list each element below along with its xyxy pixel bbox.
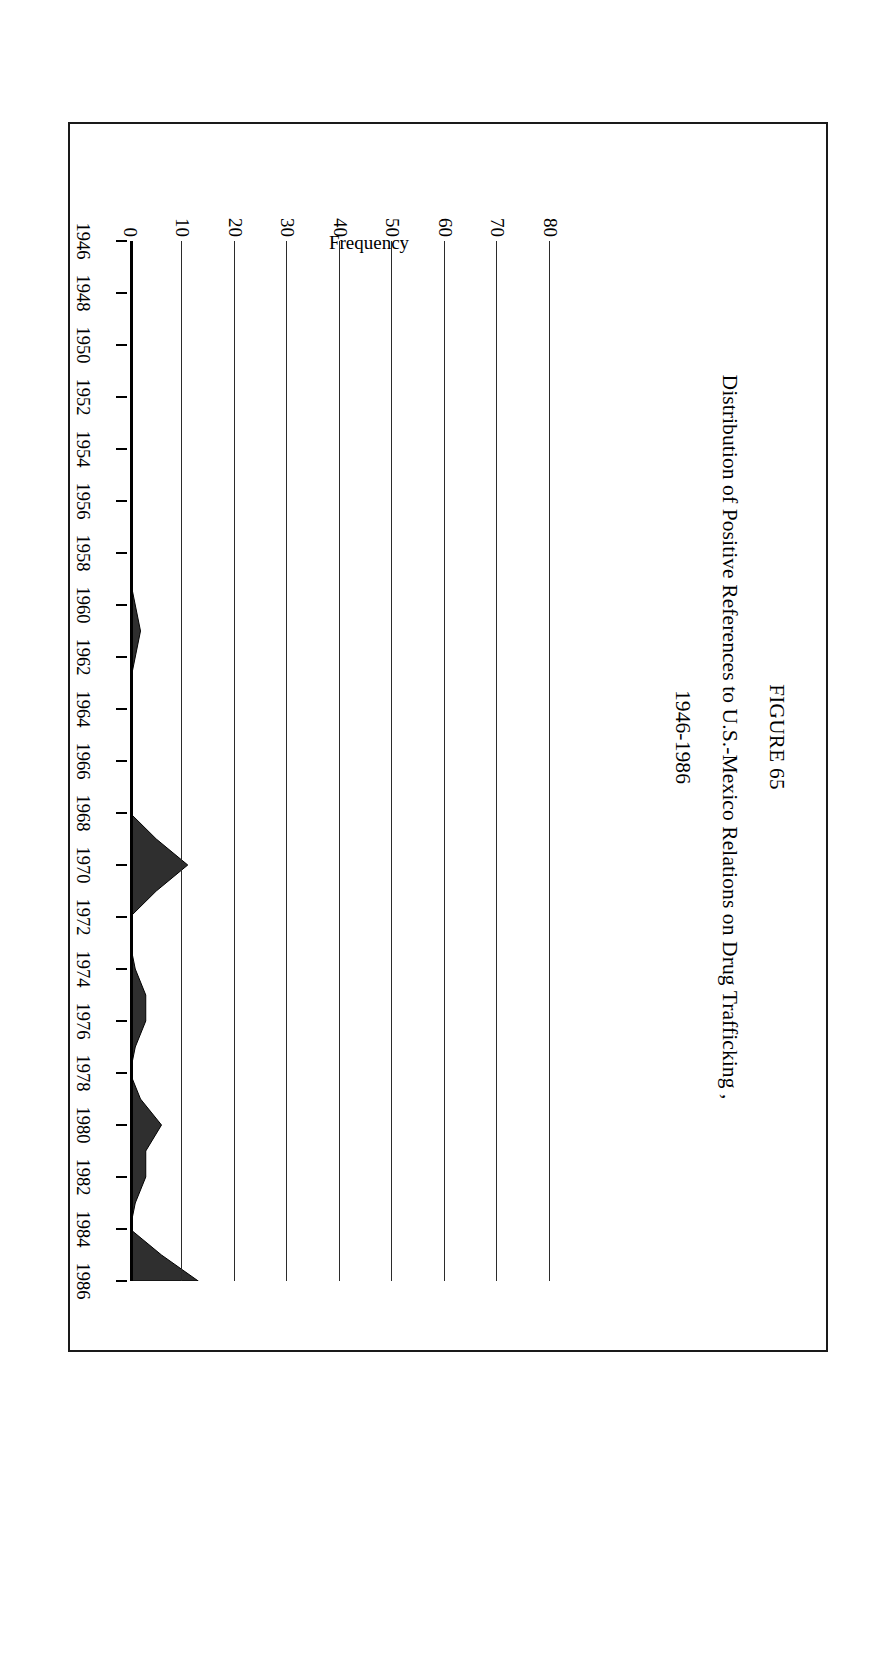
x-tick-mark: [116, 1124, 127, 1126]
x-tick-mark: [116, 916, 127, 918]
figure-title-block: FIGURE 65 Distribution of Positive Refer…: [667, 137, 792, 1337]
x-tick-label: 1976: [74, 991, 93, 1051]
gridline: [287, 241, 288, 1281]
gridline: [549, 241, 550, 1281]
x-axis-ticks: [115, 241, 127, 1281]
x-tick-mark: [116, 1280, 127, 1282]
x-tick-label: 1962: [74, 627, 93, 687]
figure-subtitle: 1946-1986: [667, 137, 699, 1337]
x-tick-mark: [116, 760, 127, 762]
x-tick-mark: [116, 1176, 127, 1178]
x-tick-label: 1954: [74, 419, 93, 479]
area-series-path: [130, 241, 550, 1281]
x-tick-mark: [116, 708, 127, 710]
gridline: [444, 241, 445, 1281]
figure-page-border: FIGURE 65 Distribution of Positive Refer…: [68, 122, 828, 1352]
x-tick-mark: [116, 968, 127, 970]
x-tick-mark: [116, 604, 127, 606]
x-tick-label: 1950: [74, 315, 93, 375]
x-tick-mark: [116, 864, 127, 866]
chart-plot-area: [130, 241, 550, 1281]
y-tick-label: 20: [226, 201, 245, 237]
gridline: [182, 241, 183, 1281]
x-tick-mark: [116, 448, 127, 450]
x-tick-label: 1948: [74, 263, 93, 323]
x-tick-mark: [116, 344, 127, 346]
x-tick-mark: [116, 1072, 127, 1074]
y-tick-label: 80: [541, 201, 560, 237]
x-tick-label: 1970: [74, 835, 93, 895]
x-axis-tick-labels: 1946194819501952195419561958196019621964…: [40, 241, 110, 1281]
x-tick-label: 1960: [74, 575, 93, 635]
x-tick-label: 1986: [74, 1251, 93, 1311]
x-tick-mark: [116, 240, 127, 242]
x-tick-mark: [116, 500, 127, 502]
gridline: [497, 241, 498, 1281]
x-tick-mark: [116, 1228, 127, 1230]
x-tick-label: 1984: [74, 1199, 93, 1259]
x-tick-label: 1952: [74, 367, 93, 427]
x-tick-mark: [116, 1020, 127, 1022]
x-tick-label: 1972: [74, 887, 93, 947]
y-tick-label: 60: [436, 201, 455, 237]
x-tick-label: 1966: [74, 731, 93, 791]
figure-number: FIGURE 65: [762, 137, 792, 1337]
y-tick-label: 10: [173, 201, 192, 237]
rotated-figure-container: FIGURE 65 Distribution of Positive Refer…: [78, 137, 818, 1337]
x-tick-mark: [116, 812, 127, 814]
x-tick-mark: [116, 552, 127, 554]
y-tick-label: 70: [488, 201, 507, 237]
gridline: [234, 241, 235, 1281]
x-tick-label: 1978: [74, 1043, 93, 1103]
x-tick-label: 1946: [74, 211, 93, 271]
x-tick-label: 1958: [74, 523, 93, 583]
x-axis-baseline: [130, 241, 133, 1281]
y-axis-tick-labels: 01020304050607080: [130, 197, 550, 237]
gridline: [339, 241, 340, 1281]
x-tick-mark: [116, 396, 127, 398]
x-tick-label: 1982: [74, 1147, 93, 1207]
x-tick-label: 1964: [74, 679, 93, 739]
x-tick-label: 1956: [74, 471, 93, 531]
y-tick-label: 0: [121, 201, 140, 237]
y-tick-label: 50: [383, 201, 402, 237]
chart-plot-wrapper: Frequency 01020304050607080 194619481950…: [130, 241, 550, 1281]
x-tick-label: 1968: [74, 783, 93, 843]
gridline: [392, 241, 393, 1281]
x-tick-label: 1974: [74, 939, 93, 999]
y-tick-label: 40: [331, 201, 350, 237]
x-tick-mark: [116, 292, 127, 294]
figure-title: Distribution of Positive References to U…: [713, 137, 745, 1337]
x-tick-mark: [116, 656, 127, 658]
x-tick-label: 1980: [74, 1095, 93, 1155]
y-tick-label: 30: [278, 201, 297, 237]
